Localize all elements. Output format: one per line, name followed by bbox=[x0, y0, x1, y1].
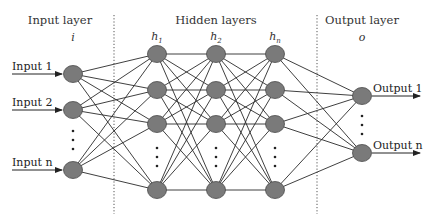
neuron-node bbox=[207, 116, 226, 133]
neuron-node bbox=[353, 145, 372, 162]
edge bbox=[73, 124, 157, 170]
neuron-node bbox=[148, 116, 167, 133]
neuron-node bbox=[353, 88, 372, 105]
neuron-node bbox=[266, 46, 285, 63]
symbol-subscript: 2 bbox=[217, 37, 221, 45]
neuron-node bbox=[266, 116, 285, 133]
edge bbox=[275, 153, 362, 190]
input-layer-symbol: i bbox=[71, 31, 75, 44]
output-layer-symbol: o bbox=[359, 31, 366, 44]
symbol-subscript: 1 bbox=[158, 37, 162, 45]
hidden-layers-title: Hidden layers bbox=[175, 13, 257, 27]
neuron-node bbox=[266, 182, 285, 199]
symbol-subscript: n bbox=[276, 37, 281, 45]
output-n-label: Output n bbox=[373, 139, 423, 152]
input-layer-title: Input layer bbox=[28, 13, 92, 27]
edge bbox=[73, 90, 157, 110]
neuron-node bbox=[207, 82, 226, 99]
neuron-node bbox=[148, 82, 167, 99]
neuron-node bbox=[266, 82, 285, 99]
hidden-layer-2-symbol: h2 bbox=[210, 30, 222, 45]
edge bbox=[275, 90, 362, 96]
hidden-layer-1-symbol: h1 bbox=[151, 30, 163, 45]
hidden-layer-n-symbol: hn bbox=[269, 30, 281, 45]
neuron-nodes bbox=[64, 46, 372, 199]
neuron-node bbox=[148, 46, 167, 63]
input-1-label: Input 1 bbox=[12, 60, 52, 73]
neuron-node bbox=[64, 66, 83, 83]
neuron-node bbox=[207, 46, 226, 63]
input-2-label: Input 2 bbox=[12, 96, 52, 109]
neuron-node bbox=[64, 102, 83, 119]
neuron-node bbox=[207, 182, 226, 199]
edge bbox=[275, 54, 362, 96]
input-n-label: Input n bbox=[12, 156, 53, 169]
output-1-label: Output 1 bbox=[373, 82, 423, 95]
neuron-node bbox=[64, 162, 83, 179]
output-layer-title: Output layer bbox=[325, 13, 399, 27]
neuron-node bbox=[148, 182, 167, 199]
